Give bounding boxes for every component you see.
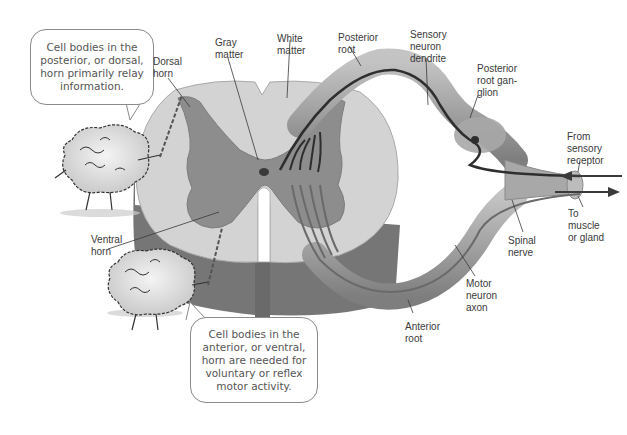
label-spinal-nerve: Spinal nerve: [508, 235, 536, 259]
left-arrow: [560, 171, 622, 181]
dorsal-bubble-tail: [126, 103, 140, 120]
label-to-muscle-or-gland: To muscle or gland: [568, 208, 604, 244]
label-anterior-root: Anterior root: [405, 321, 440, 345]
label-white-matter: White matter: [277, 33, 305, 57]
central-canal: [259, 168, 269, 176]
dorsal-horn-callout: Cell bodies in the posterior, or dorsal,…: [30, 29, 154, 105]
label-ventral-horn: Ventral horn: [91, 234, 122, 258]
label-motor-neuron-axon: Motor neuron axon: [466, 278, 497, 314]
label-from-sensory-receptor: From sensory receptor: [567, 131, 604, 167]
ventral-horn-callout: Cell bodies in the anterior, or ventral,…: [190, 317, 318, 403]
anterior-fissure: [258, 188, 270, 263]
spinal-nerve: [505, 160, 575, 200]
label-sensory-neuron-dendrite: Sensory neuron dendrite: [410, 29, 447, 65]
label-gray-matter: Gray matter: [215, 37, 243, 61]
label-posterior-root-ganglion: Posterior root gan- glion: [477, 63, 517, 99]
label-dorsal-horn: Dorsal horn: [153, 56, 182, 80]
spinal-cord-diagram: Cell bodies in the posterior, or dorsal,…: [0, 0, 627, 435]
label-posterior-root: Posterior root: [338, 32, 378, 56]
